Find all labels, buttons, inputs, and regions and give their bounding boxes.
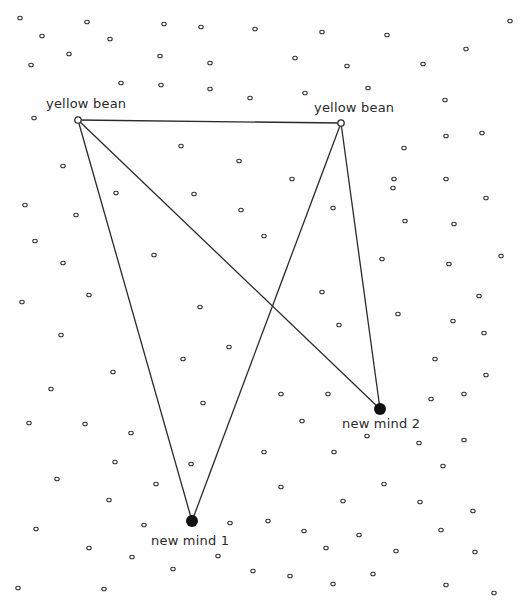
label-new-mind-2: new mind 2 [342,416,420,431]
background-dot [208,61,212,65]
background-dot [484,373,488,377]
background-dot [320,30,324,34]
background-dot [447,262,451,266]
diagram-canvas: yellow bean yellow bean new mind 1 new m… [0,0,527,609]
background-dot [227,345,231,349]
background-dot [385,33,389,37]
background-dot [473,550,477,554]
background-dot [201,401,205,405]
background-dot [171,567,175,571]
background-dot [253,27,257,31]
background-dot [290,177,294,181]
background-dot [303,91,307,95]
background-dot [23,203,27,207]
background-dot [477,294,481,298]
hollow-node-yb1 [75,117,81,123]
background-dot [499,254,503,258]
background-dot [20,300,24,304]
background-dot [331,582,335,586]
edge-yb1-nm2 [78,120,380,409]
background-dot [403,219,407,223]
background-dot [288,574,292,578]
background-dot [142,523,146,527]
background-dot [451,319,455,323]
background-dot [130,555,134,559]
background-dot [402,146,406,150]
background-dot [326,392,330,396]
label-new-mind-1: new mind 1 [151,533,229,548]
background-dot [111,370,115,374]
background-dot [34,527,38,531]
background-dot [119,81,123,85]
background-dot [61,164,65,168]
background-dot [279,485,283,489]
background-dot [471,509,475,513]
background-dot [67,52,71,56]
background-dot [484,196,488,200]
background-dot [228,521,232,525]
label-yellow-bean-2: yellow bean [314,100,394,115]
background-dot [300,419,304,423]
background-dot [302,529,306,533]
background-dot [262,234,266,238]
background-dot [337,323,341,327]
background-dot [87,293,91,297]
background-dot [371,572,375,576]
filled-node-nm2 [374,403,386,415]
background-dot [55,477,59,481]
background-dot [216,554,220,558]
background-dot [391,186,395,190]
background-dot [251,569,255,573]
background-dot [27,421,31,425]
background-dot [480,131,484,135]
background-dot [114,191,118,195]
background-dot [192,192,196,196]
background-dot [444,583,448,587]
background-dot [237,159,241,163]
background-dot [113,460,117,464]
edge-yb1-yb2 [78,120,341,123]
background-dot [452,222,456,226]
background-dot [382,482,386,486]
connection-lines [78,120,380,521]
edge-yb1-nm1 [78,120,192,521]
background-dot [199,25,203,29]
background-dot [508,19,512,23]
background-dot [396,312,400,316]
background-dot [341,499,345,503]
background-dot [208,87,212,91]
background-dot [33,239,37,243]
background-dot [462,438,466,442]
background-dot [429,397,433,401]
background-dot [179,144,183,148]
background-dot [154,482,158,486]
background-dot [108,37,112,41]
background-dot [439,528,443,532]
label-yellow-bean-1: yellow bean [46,96,126,111]
background-dot [159,83,163,87]
background-dot [441,464,445,468]
background-dot [365,434,369,438]
background-dot [444,134,448,138]
background-dot [366,86,370,90]
background-dot [331,206,335,210]
background-dot [357,533,361,537]
background-dot [59,333,63,337]
background-dot [239,208,243,212]
background-dot [29,63,33,67]
diagram-nodes [75,117,386,527]
background-dot [492,591,496,595]
background-dot [152,253,156,257]
background-dot [320,290,324,294]
background-dot [18,16,22,20]
background-dot [40,34,44,38]
background-dot [83,422,87,426]
background-dot [345,64,349,68]
background-dot [189,462,193,466]
background-dot [198,305,202,309]
background-dot [266,519,270,523]
background-dot [162,22,166,26]
diagram-svg [0,0,527,609]
background-dot [482,331,486,335]
background-dot [262,450,266,454]
